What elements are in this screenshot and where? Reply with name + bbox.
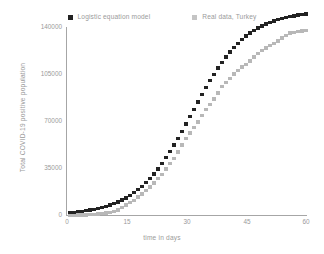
data-point-model — [68, 211, 71, 214]
legend-label-real-data: Real data, Turkey — [202, 14, 256, 21]
data-point-real — [112, 210, 115, 213]
data-point-real — [216, 91, 219, 94]
data-point-real — [120, 206, 123, 209]
data-point-model — [144, 181, 147, 184]
data-point-real — [108, 211, 111, 214]
data-point-real — [192, 126, 195, 129]
data-point-real — [228, 77, 231, 80]
data-point-real — [256, 52, 259, 55]
data-point-real — [260, 49, 263, 52]
y-tick-105000: 105000 — [41, 71, 62, 77]
y-axis-tick-labels: 140000 105000 70000 35000 0 — [0, 0, 62, 254]
x-tick-0: 0 — [65, 219, 69, 225]
data-point-model — [72, 211, 75, 214]
data-point-model — [104, 205, 107, 208]
data-point-real — [272, 42, 275, 45]
data-point-real — [200, 114, 203, 117]
data-point-model — [184, 122, 187, 125]
y-axis-title: Total COVID-19 positive population — [19, 28, 26, 208]
data-point-real — [196, 120, 199, 123]
data-point-model — [160, 162, 163, 165]
data-point-real — [164, 167, 167, 170]
data-point-model — [152, 172, 155, 175]
data-point-real — [124, 203, 127, 206]
x-axis-title: time in days — [0, 234, 324, 241]
data-point-model — [120, 198, 123, 201]
data-point-model — [76, 210, 79, 213]
data-point-real — [172, 157, 175, 160]
data-point-real — [280, 36, 283, 39]
data-point-model — [124, 196, 127, 199]
data-point-model — [128, 194, 131, 197]
data-point-real — [204, 108, 207, 111]
x-tick-45: 45 — [243, 219, 250, 225]
x-tick-60: 60 — [302, 219, 309, 225]
data-point-model — [164, 156, 167, 159]
data-point-model — [248, 31, 251, 34]
data-point-real — [176, 150, 179, 153]
data-point-real — [296, 30, 299, 33]
data-point-real — [140, 192, 143, 195]
data-point-model — [156, 167, 159, 170]
data-point-real — [160, 173, 163, 176]
legend-item-real-data[interactable]: Real data, Turkey — [192, 14, 256, 21]
data-point-real — [148, 185, 151, 188]
data-point-model — [148, 177, 151, 180]
data-point-real — [300, 29, 303, 32]
data-point-real — [144, 189, 147, 192]
data-point-model — [88, 208, 91, 211]
data-point-model — [236, 42, 239, 45]
data-point-model — [204, 86, 207, 89]
y-tick-140000: 140000 — [41, 24, 62, 30]
data-point-model — [96, 207, 99, 210]
data-point-real — [224, 81, 227, 84]
data-point-model — [220, 61, 223, 64]
data-point-real — [220, 85, 223, 88]
data-point-real — [288, 31, 291, 34]
data-point-real — [240, 65, 243, 68]
legend-item-model[interactable]: Logistic equation model — [68, 14, 151, 21]
data-point-model — [172, 143, 175, 146]
data-point-model — [84, 209, 87, 212]
data-point-model — [188, 115, 191, 118]
y-tick-70000: 70000 — [44, 118, 62, 124]
data-point-model — [140, 185, 143, 188]
data-point-real — [116, 208, 119, 211]
y-tick-35000: 35000 — [44, 165, 62, 171]
data-point-model — [108, 203, 111, 206]
data-point-model — [168, 150, 171, 153]
data-point-model — [228, 50, 231, 53]
data-point-real — [152, 181, 155, 184]
data-point-real — [248, 59, 251, 62]
data-point-real — [292, 31, 295, 34]
data-point-real — [284, 34, 287, 37]
data-point-model — [100, 206, 103, 209]
data-point-real — [156, 177, 159, 180]
data-point-model — [192, 108, 195, 111]
black-square-marker-icon — [68, 15, 73, 20]
data-point-real — [128, 201, 131, 204]
data-point-real — [252, 55, 255, 58]
data-point-real — [212, 97, 215, 100]
data-point-model — [92, 208, 95, 211]
data-point-model — [208, 79, 211, 82]
data-point-real — [276, 39, 279, 42]
data-point-model — [112, 202, 115, 205]
data-point-real — [132, 199, 135, 202]
data-point-real — [304, 29, 307, 32]
data-point-model — [136, 188, 139, 191]
y-axis-line — [66, 27, 67, 216]
data-point-model — [256, 26, 259, 29]
data-point-real — [264, 46, 267, 49]
data-point-model — [80, 210, 83, 213]
data-point-model — [176, 137, 179, 140]
x-tick-30: 30 — [183, 219, 190, 225]
data-point-model — [132, 191, 135, 194]
legend-label-model: Logistic equation model — [78, 14, 151, 21]
data-point-model — [116, 200, 119, 203]
data-point-real — [188, 131, 191, 134]
gray-square-marker-icon — [192, 15, 197, 20]
data-point-real — [236, 69, 239, 72]
data-point-model — [240, 38, 243, 41]
data-point-model — [244, 34, 247, 37]
